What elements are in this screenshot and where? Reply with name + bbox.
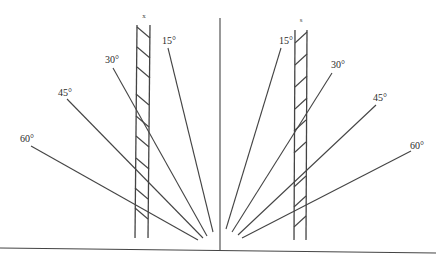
ray-left-60 (31, 146, 198, 240)
baseline (0, 248, 436, 253)
label-right-60: 60° (410, 140, 424, 151)
label-right-30: 30° (331, 59, 345, 70)
label-right-45: 45° (373, 92, 387, 103)
label-left-15: 15° (162, 35, 176, 46)
angle-diagram: x s 15° 30° 45° 60° 15° 30° 45° 60° (0, 0, 441, 266)
label-left-60: 60° (20, 133, 34, 144)
right-bar-label: s (300, 16, 303, 24)
ray-right-60 (242, 151, 411, 238)
left-bar-label: x (142, 12, 146, 20)
ray-left-15 (168, 48, 213, 232)
label-left-30: 30° (105, 54, 119, 65)
label-right-15: 15° (279, 35, 293, 46)
ray-right-30 (232, 73, 332, 232)
label-left-45: 45° (58, 87, 72, 98)
